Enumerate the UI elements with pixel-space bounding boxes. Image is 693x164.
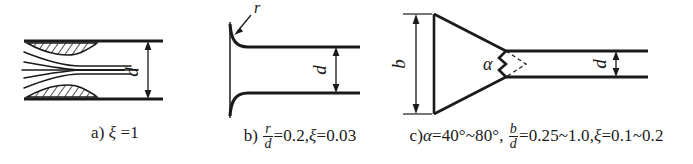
dimension-d: d <box>589 51 619 77</box>
caption-a-label: a) <box>91 123 104 142</box>
diagram-conical-entrance: b α d <box>380 0 693 120</box>
pipe-wall-upper-filleted <box>230 24 360 47</box>
separation-zone-upper <box>27 43 97 55</box>
figure-panel-c: b α d c)α=40°~80°, <box>380 0 693 164</box>
separation-zone-lower <box>27 85 97 97</box>
caption-a-value: 1 <box>130 123 139 142</box>
dimension-alpha-label: α <box>483 54 493 74</box>
apex-dashed-lines <box>506 51 526 77</box>
cone-side-upper <box>434 14 506 51</box>
caption-a-symbol: ξ <box>109 123 116 142</box>
caption-c-fraction-denominator: d <box>509 136 518 151</box>
caption-c-alpha-symbol: α <box>423 126 432 145</box>
cone-side-lower <box>434 77 506 114</box>
dimension-b-label: b <box>388 59 409 69</box>
dimension-r-arrowhead <box>234 28 243 36</box>
dimension-d-label: d <box>121 67 142 77</box>
dimension-b-arrowhead-bottom <box>413 104 420 114</box>
dimension-d-label: d <box>309 65 330 75</box>
caption-c-label: c) <box>410 126 423 145</box>
caption-b-fraction-numerator: r <box>263 122 272 136</box>
caption-c-value: 0.1~0.2 <box>611 126 663 145</box>
dimension-b-arrowhead-top <box>413 14 420 24</box>
caption-a-equals: = <box>121 123 131 142</box>
dimension-d-label: d <box>589 59 610 69</box>
dimension-b: b <box>388 14 419 114</box>
caption-panel-c: c)α=40°~80°, b d =0.25~1.0,ξ=0.1~0.2 <box>380 123 693 152</box>
dimension-r-label: r <box>254 0 261 16</box>
figure-panel-b: r d b) r d =0.2,ξ=0.03 <box>210 0 390 164</box>
caption-b-fraction: r d <box>263 122 272 151</box>
caption-c-fraction-value: =0.25~1.0, <box>519 126 594 145</box>
caption-b-label: b) <box>244 126 258 145</box>
caption-b-value: 0.03 <box>326 126 356 145</box>
figure-sheet: d a) ξ =1 r <box>0 0 693 164</box>
caption-c-alpha-value: =40°~80°, <box>432 126 504 145</box>
caption-b-fraction-value: =0.2, <box>274 126 310 145</box>
pipe-wall-lower-filleted <box>230 93 360 116</box>
caption-c-fraction: b d <box>509 122 518 151</box>
dimension-r: r <box>234 0 261 35</box>
cone-throat-notch <box>499 51 506 77</box>
diagram-sharp-edged-entrance: d <box>0 0 230 120</box>
caption-c-equals: = <box>601 126 611 145</box>
caption-b-equals: = <box>316 126 326 145</box>
caption-panel-a: a) ξ =1 <box>0 123 230 143</box>
caption-panel-b: b) r d =0.2,ξ=0.03 <box>210 123 390 152</box>
dimension-d: d <box>121 41 151 99</box>
dimension-d: d <box>309 47 339 93</box>
diagram-rounded-entrance: r d <box>210 0 390 120</box>
figure-panel-a: d a) ξ =1 <box>0 0 230 164</box>
caption-c-fraction-numerator: b <box>509 122 518 136</box>
caption-b-fraction-denominator: d <box>263 136 272 151</box>
